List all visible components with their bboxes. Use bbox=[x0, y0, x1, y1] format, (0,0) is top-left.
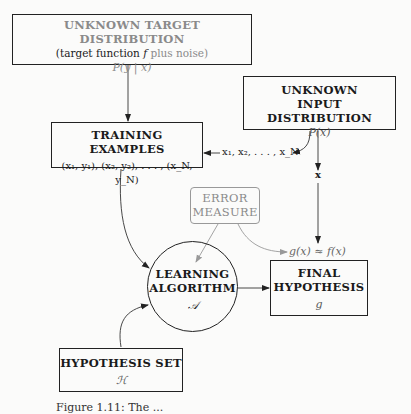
target-distribution-subtitle: (target function f plus noise) bbox=[13, 46, 251, 60]
hypothesis-set-symbol: ℋ bbox=[60, 373, 182, 388]
x-label: x bbox=[315, 169, 321, 180]
target-distribution-title: UNKNOWN TARGET DISTRIBUTION bbox=[13, 18, 251, 46]
training-examples-title: TRAINING EXAMPLES bbox=[52, 128, 202, 156]
final-hypothesis-line2: HYPOTHESIS bbox=[271, 280, 367, 294]
arrow-error-to-approx bbox=[238, 224, 287, 252]
hypothesis-set-title: HYPOTHESIS SET bbox=[60, 356, 182, 370]
final-hypothesis-line1: FINAL bbox=[271, 266, 367, 280]
learning-algorithm-circle: LEARNING ALGORITHM 𝒜 bbox=[147, 241, 238, 332]
training-examples-formula: (x₁, y₁), (x₂, y₂), . . . , (x_N, y_N) bbox=[52, 159, 202, 187]
learning-algorithm-line1: LEARNING bbox=[148, 267, 237, 281]
input-distribution-formula: P(x) bbox=[244, 125, 395, 140]
error-measure-box: ERROR MEASURE bbox=[190, 187, 260, 224]
arrow-hset-to-algorithm bbox=[120, 305, 148, 347]
figure-caption: Figure 1.11: The ... bbox=[56, 401, 163, 414]
training-examples-box: TRAINING EXAMPLES (x₁, y₁), (x₂, y₂), . … bbox=[51, 122, 203, 168]
input-distribution-title-2: INPUT DISTRIBUTION bbox=[244, 97, 395, 125]
input-distribution-title-1: UNKNOWN bbox=[244, 83, 395, 97]
final-hypothesis-symbol: g bbox=[271, 297, 367, 312]
target-distribution-box: UNKNOWN TARGET DISTRIBUTION (target func… bbox=[12, 14, 252, 65]
error-measure-line1: ERROR bbox=[191, 191, 259, 205]
input-distribution-box: UNKNOWN INPUT DISTRIBUTION P(x) bbox=[243, 76, 396, 130]
approximation-label: g(x) ≈ f(x) bbox=[289, 244, 346, 259]
final-hypothesis-box: FINAL HYPOTHESIS g bbox=[270, 260, 368, 316]
target-distribution-formula: P(y | x) bbox=[13, 60, 251, 75]
error-measure-line2: MEASURE bbox=[191, 205, 259, 219]
hypothesis-set-box: HYPOTHESIS SET ℋ bbox=[59, 348, 183, 392]
learning-algorithm-symbol: 𝒜 bbox=[148, 298, 237, 313]
input-samples-label: x₁, x₂, . . . , x_N bbox=[222, 146, 299, 157]
learning-algorithm-line2: ALGORITHM bbox=[148, 281, 237, 295]
